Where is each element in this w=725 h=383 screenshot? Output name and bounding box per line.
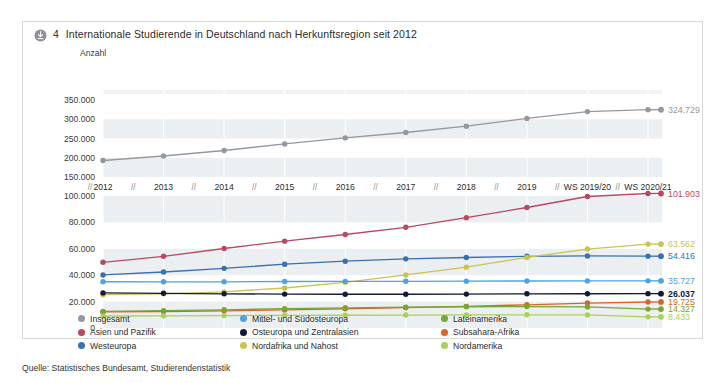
axis-break-mark: // (615, 183, 620, 192)
series-data-point (464, 278, 469, 283)
series-data-point (100, 272, 105, 277)
legend-label: Lateinamerika (453, 314, 507, 324)
series-end-label: 8.433 (668, 312, 690, 322)
legend-item[interactable]: Westeuropa (78, 339, 240, 353)
legend-color-dot-icon (441, 342, 448, 349)
legend-color-dot-icon (441, 329, 448, 336)
series-data-point (585, 109, 590, 114)
series-end-label: 54.416 (668, 251, 695, 261)
series-data-point (343, 135, 348, 140)
legend-color-dot-icon (78, 329, 85, 336)
axis-break-mark: // (373, 183, 378, 192)
legend-item[interactable]: Insgesamt (78, 312, 240, 326)
y-axis-tick-label: 300.000 (64, 114, 95, 124)
x-axis-tick-label: 2018 (457, 182, 476, 192)
series-data-point (585, 246, 590, 251)
series-data-point (403, 292, 408, 297)
legend-label: Nordamerika (453, 341, 502, 351)
legend-item[interactable]: Nordafrika und Nahost (240, 339, 441, 353)
y-axis-tick-label: 250.000 (64, 134, 95, 144)
legend-label: Subsahara-Afrika (453, 327, 519, 337)
download-circle-icon[interactable] (34, 28, 47, 41)
axis-break-mark: // (555, 183, 560, 192)
chart-plot-area: Anzahl 150.000200.000250.000300.000350.0… (23, 46, 702, 338)
series-data-point (585, 253, 590, 258)
x-axis-tick-label: WS 2020/21 (624, 182, 672, 192)
legend-label: Mittel- und Südosteuropa (252, 314, 348, 324)
series-data-point (585, 291, 590, 296)
axis-break-mark: // (313, 183, 318, 192)
legend-item[interactable]: Nordamerika (441, 339, 638, 353)
series-data-point (100, 260, 105, 265)
series-end-marker (658, 306, 664, 312)
series-data-point (524, 304, 529, 309)
series-data-point (282, 291, 287, 296)
figure-card: 4 Internationale Studierende in Deutschl… (22, 21, 703, 339)
series-data-point (585, 304, 590, 309)
figure-number: 4 (53, 28, 59, 40)
series-data-point (221, 246, 226, 251)
legend-item[interactable]: Mittel- und Südosteuropa (240, 312, 441, 326)
legend-item[interactable]: Asien und Pazifik (78, 326, 240, 340)
series-data-point (464, 264, 469, 269)
series-data-point (343, 232, 348, 237)
x-axis-tick-label: 2014 (215, 182, 234, 192)
series-data-point (161, 254, 166, 259)
series-data-point (221, 291, 226, 296)
series-data-point (221, 266, 226, 271)
series-data-point (464, 304, 469, 309)
series-line (103, 293, 648, 294)
card-header: 4 Internationale Studierende in Deutschl… (23, 22, 702, 46)
series-data-point (282, 238, 287, 243)
y-axis-tick-label: 150.000 (64, 172, 95, 182)
series-data-point (524, 205, 529, 210)
source-note: Quelle: Statistisches Bundesamt, Studier… (22, 363, 230, 373)
axis-break-mark: // (88, 183, 93, 192)
series-end-marker (658, 278, 664, 284)
series-data-point (464, 255, 469, 260)
series-data-point (585, 194, 590, 199)
legend-color-dot-icon (441, 315, 448, 322)
x-axis-tick-label: 2016 (336, 182, 355, 192)
legend-color-dot-icon (240, 315, 247, 322)
y-axis-tick-label: 80.000 (69, 217, 96, 227)
chart-legend: InsgesamtMittel- und SüdosteuropaLateina… (78, 312, 638, 353)
series-data-point (282, 262, 287, 267)
series-data-point (282, 279, 287, 284)
series-data-point (100, 158, 105, 163)
axis-break-mark: // (252, 183, 257, 192)
y-axis-tick-label: 350.000 (64, 95, 95, 105)
series-data-point (100, 279, 105, 284)
legend-item[interactable]: Osteuropa und Zentralasien (240, 326, 441, 340)
series-data-point (585, 278, 590, 283)
series-data-point (524, 116, 529, 121)
series-end-label: 63.562 (668, 239, 695, 249)
axis-break-mark: // (192, 183, 197, 192)
legend-label: Nordafrika und Nahost (252, 341, 338, 351)
series-data-point (161, 291, 166, 296)
series-data-point (464, 215, 469, 220)
screenshot-root: 4 Internationale Studierende in Deutschl… (0, 0, 725, 383)
series-data-point (282, 306, 287, 311)
series-end-marker (658, 253, 664, 259)
series-data-point (403, 256, 408, 261)
y-axis-tick-label: 100.000 (64, 191, 95, 201)
line-chart-svg: 150.000200.000250.000300.000350.000020.0… (23, 46, 702, 338)
series-data-point (221, 148, 226, 153)
series-end-marker (658, 291, 664, 297)
series-data-point (282, 141, 287, 146)
legend-color-dot-icon (240, 342, 247, 349)
legend-item[interactable]: Lateinamerika (441, 312, 638, 326)
series-end-marker (658, 314, 664, 320)
series-end-marker (658, 191, 664, 197)
series-data-point (161, 269, 166, 274)
series-data-point (343, 279, 348, 284)
series-data-point (403, 272, 408, 277)
series-end-marker (658, 299, 664, 305)
axis-break-mark: // (131, 183, 136, 192)
legend-label: Osteuropa und Zentralasien (252, 327, 359, 337)
y-axis-tick-label: 200.000 (64, 153, 95, 163)
series-data-point (100, 290, 105, 295)
legend-item[interactable]: Subsahara-Afrika (441, 326, 638, 340)
x-axis-tick-label: 2012 (93, 182, 112, 192)
